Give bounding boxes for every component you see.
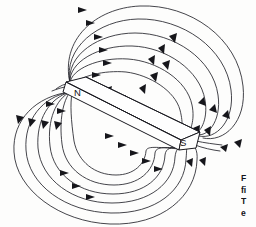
caption-line-2: fi (241, 185, 256, 197)
caption-line-3: T (241, 196, 256, 208)
figure-caption: F fi T e (241, 173, 256, 219)
south-pole-label: S (180, 137, 186, 148)
north-pole-label: N (74, 87, 81, 98)
caption-line-4: e (241, 208, 256, 220)
caption-line-1: F (241, 173, 256, 185)
right-convergence-lines (195, 141, 222, 151)
field-line-diagram: N S (0, 0, 256, 227)
magnetic-field-figure: N S F fi T e (0, 0, 256, 227)
